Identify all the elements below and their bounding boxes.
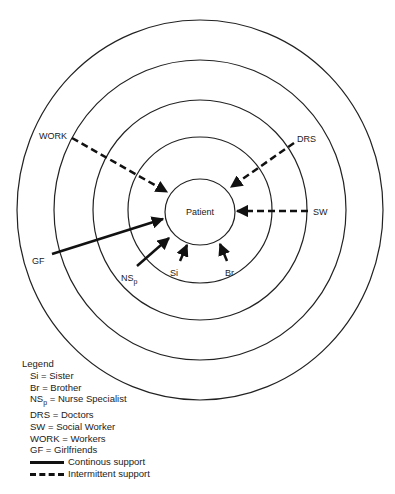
work-arrow [72, 138, 167, 192]
work-label: WORK [39, 131, 67, 141]
legend-item-nsp: NSp = Nurse Specialist [30, 393, 150, 409]
nsp-arrow [137, 238, 169, 266]
legend-item-si: Si = Sister [30, 370, 150, 382]
legend-title: Legend [22, 358, 150, 370]
legend-item-br: Br = Brother [30, 382, 150, 394]
solid-line-icon [30, 461, 64, 464]
dashed-line-icon [30, 473, 64, 476]
drs-label: DRS [297, 134, 316, 144]
gf-arrow [52, 219, 163, 254]
legend-item-sw: SW = Social Worker [30, 421, 150, 433]
gf-label: GF [32, 256, 45, 266]
sw-label: SW [313, 207, 328, 217]
legend: Legend Si = Sister Br = Brother NSp = Nu… [22, 358, 150, 480]
si-label: Si [170, 268, 178, 278]
legend-continuous: Continous support [30, 456, 150, 468]
br-label: Br [225, 268, 234, 278]
br-arrow [220, 244, 227, 261]
legend-item-gf: GF = Girlfriends [30, 444, 150, 456]
si-arrow [180, 245, 187, 261]
nsp-label: NSp [121, 273, 138, 286]
patient-label: Patient [186, 207, 215, 217]
legend-intermittent: Intermittent support [30, 468, 150, 480]
legend-item-drs: DRS = Doctors [30, 409, 150, 421]
legend-item-work: WORK = Workers [30, 433, 150, 445]
